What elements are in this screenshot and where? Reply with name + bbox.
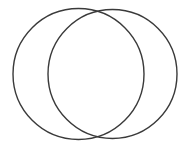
figure-canvas	[0, 0, 191, 148]
two-overlapping-circles-diagram	[0, 0, 191, 148]
canvas-background	[0, 0, 191, 148]
